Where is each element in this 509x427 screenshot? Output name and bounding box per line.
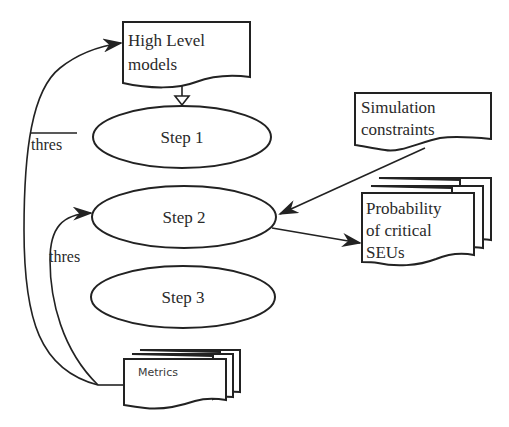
- step-3-label: Step 3: [162, 288, 205, 307]
- high-level-models-line-2: models: [128, 55, 177, 74]
- high-level-models-document: High Level models: [123, 22, 250, 87]
- edge-step2-to-probability: [272, 228, 360, 243]
- probability-line-3: SEUs: [366, 243, 405, 262]
- high-level-models-line-1: High Level: [128, 31, 205, 50]
- step-1-node: Step 1: [93, 106, 271, 168]
- flow-diagram: High Level models Step 1 Step 2 Step 3 S…: [0, 0, 509, 427]
- hollow-arrowhead-icon: [175, 96, 189, 105]
- step-1-label: Step 1: [161, 128, 204, 147]
- inner-thres-label: thres: [49, 248, 80, 265]
- simulation-constraints-line-1: Simulation: [361, 98, 436, 117]
- probability-critical-seus-document-stack: Probability of critical SEUs: [362, 178, 491, 265]
- probability-line-1: Probability: [366, 199, 442, 218]
- step-2-node: Step 2: [92, 186, 276, 248]
- outer-thres-label: thres: [31, 136, 62, 153]
- step-2-label: Step 2: [163, 208, 206, 227]
- probability-line-2: of critical: [366, 221, 432, 240]
- simulation-constraints-line-2: constraints: [361, 120, 435, 139]
- simulation-constraints-document: Simulation constraints: [355, 93, 491, 151]
- step-3-node: Step 3: [91, 266, 275, 328]
- metrics-label: Metrics: [138, 366, 178, 379]
- metrics-document-stack: Metrics: [124, 350, 240, 409]
